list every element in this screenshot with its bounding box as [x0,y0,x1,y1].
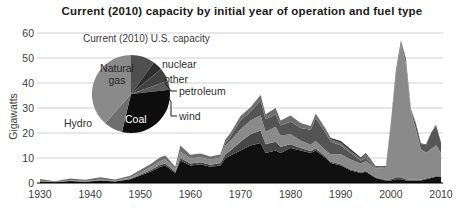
pie-title: Current (2010) U.S. capacity [83,33,210,44]
pie-label-other: other [164,73,188,85]
pie-label-nuclear: nuclear [162,58,196,70]
pie-label-coal: Coal [125,113,147,125]
pie-label-natural-gas: Natural gas [93,62,141,86]
pie-label-natural-gas-line1: Natural [93,62,141,74]
pie-label-natural-gas-line2: gas [93,74,141,86]
capacity-chart: Current (2010) capacity by initial year … [0,0,466,219]
pie-label-wind: wind [179,110,201,122]
pie-leader-lines [0,0,466,219]
wind-leader-line [167,95,177,116]
pie-label-petroleum: petroleum [179,85,226,97]
pie-label-hydro: Hydro [64,117,92,129]
